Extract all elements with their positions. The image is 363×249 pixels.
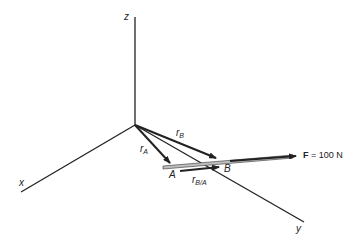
x-axis-label: x [19,178,24,188]
point-A-label: A [169,170,176,180]
y-axis [135,125,304,222]
diagram-canvas [0,0,363,249]
point-B-label: B [224,164,231,174]
rBA-label: rB/A [192,175,207,186]
rB-label: rB [176,128,184,139]
z-axis-label: z [124,12,129,22]
rA-label: rA [140,144,148,155]
force-label: F = 100 N [303,151,343,160]
x-axis [21,125,135,192]
y-axis-label: y [296,224,301,234]
